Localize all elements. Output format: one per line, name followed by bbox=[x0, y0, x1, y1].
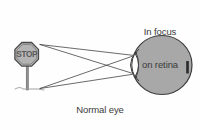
ray-bottom-upper bbox=[40, 56, 135, 89]
stop-sign: STOP bbox=[15, 43, 44, 91]
focus-label-line1: In focus bbox=[124, 26, 196, 37]
in-focus-on-retina-label: In focus on retina bbox=[124, 4, 196, 92]
focus-label-line2: on retina bbox=[124, 59, 196, 70]
sign-post bbox=[26, 64, 28, 90]
figure-canvas: STOP bbox=[0, 0, 200, 130]
ray-bottom-lower bbox=[40, 74, 135, 89]
sign-text: STOP bbox=[16, 50, 38, 59]
ray-top-lower bbox=[40, 45, 135, 75]
ground-line bbox=[15, 88, 44, 91]
ray-top-upper bbox=[40, 45, 135, 56]
normal-eye-caption: Normal eye bbox=[52, 104, 148, 115]
